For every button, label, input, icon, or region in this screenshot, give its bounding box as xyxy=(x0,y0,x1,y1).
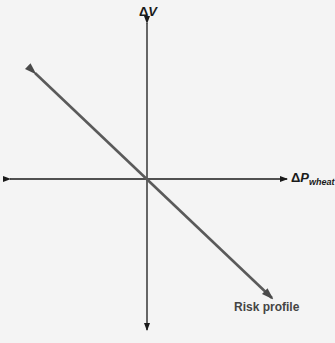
x-axis-symbol: P xyxy=(300,170,309,185)
x-axis-label: ΔPwheat xyxy=(291,170,335,187)
x-axis-delta: Δ xyxy=(291,170,300,185)
y-axis-symbol: V xyxy=(148,4,157,19)
y-axis-delta: Δ xyxy=(139,4,148,19)
risk-profile-diagram xyxy=(0,0,335,343)
risk-profile-label: Risk profile xyxy=(234,300,299,314)
x-axis-subscript: wheat xyxy=(309,177,335,187)
y-axis-label: ΔV xyxy=(139,4,157,19)
risk-profile-line xyxy=(35,73,272,298)
